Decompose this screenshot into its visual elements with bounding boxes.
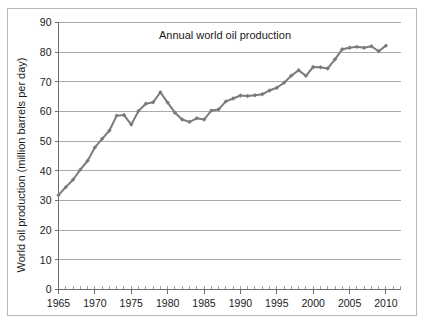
series-marker-1992 bbox=[253, 93, 257, 97]
y-tick-label-90: 90 bbox=[40, 16, 52, 28]
axis-lines bbox=[59, 23, 401, 290]
x-tick-label-1980: 1980 bbox=[156, 297, 180, 309]
figure-container: 0102030405060708090 19651970197519801985… bbox=[0, 0, 425, 324]
series-marker-2001 bbox=[318, 65, 322, 69]
series-line-path bbox=[59, 46, 386, 196]
y-tick-label-10: 10 bbox=[40, 254, 52, 266]
x-tick-label-1990: 1990 bbox=[229, 297, 253, 309]
chart-title: Annual world oil production bbox=[159, 29, 291, 41]
x-tick-label-1965: 1965 bbox=[47, 297, 71, 309]
y-tick-label-40: 40 bbox=[40, 165, 52, 177]
y-tick-label-30: 30 bbox=[40, 194, 52, 206]
y-tick-label-50: 50 bbox=[40, 135, 52, 147]
x-tick-label-1975: 1975 bbox=[120, 297, 144, 309]
y-tick-label-70: 70 bbox=[40, 76, 52, 88]
data-series-world-oil-production bbox=[56, 43, 388, 197]
y-tick-label-20: 20 bbox=[40, 224, 52, 236]
x-tick-label-2010: 2010 bbox=[374, 297, 398, 309]
y-tick-label-60: 60 bbox=[40, 105, 52, 117]
gridlines bbox=[59, 23, 401, 260]
oil-production-line-chart: 0102030405060708090 19651970197519801985… bbox=[0, 0, 425, 324]
y-tick-label-0: 0 bbox=[46, 283, 52, 295]
x-axis-tick-labels: 1965197019751980198519901995200020052010 bbox=[47, 297, 398, 309]
series-marker-2006 bbox=[355, 45, 359, 49]
x-tick-label-1995: 1995 bbox=[265, 297, 289, 309]
series-marker-2007 bbox=[362, 46, 366, 50]
series-marker-1991 bbox=[245, 94, 249, 98]
x-tick-label-2000: 2000 bbox=[302, 297, 326, 309]
series-marker-2005 bbox=[347, 46, 351, 50]
y-axis-tick-labels: 0102030405060708090 bbox=[40, 16, 52, 295]
y-tick-label-80: 80 bbox=[40, 46, 52, 58]
x-tick-label-1985: 1985 bbox=[192, 297, 216, 309]
y-axis-title: World oil production (million barrels pe… bbox=[15, 58, 27, 273]
axis-ticks bbox=[55, 23, 401, 294]
x-tick-label-1970: 1970 bbox=[83, 297, 107, 309]
x-tick-label-2005: 2005 bbox=[338, 297, 362, 309]
